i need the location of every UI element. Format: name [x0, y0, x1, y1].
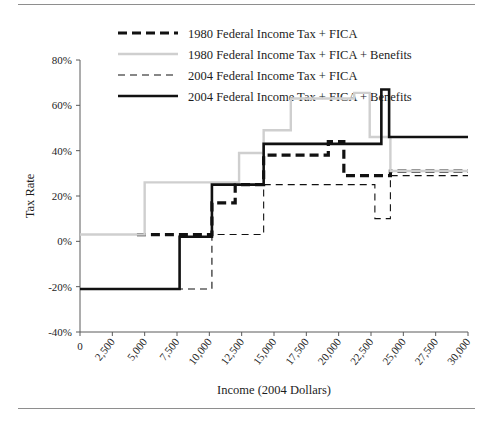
chart-series: [80, 89, 468, 288]
x-tick-label: 17,500: [283, 335, 311, 367]
series-line-tax1980: [137, 142, 468, 235]
tax-rate-step-chart: 1980 Federal Income Tax + FICA1980 Feder…: [0, 0, 493, 421]
y-tick-label: -40%: [48, 326, 72, 338]
legend-label-0: 1980 Federal Income Tax + FICA: [188, 27, 357, 41]
x-tick-label: 15,000: [250, 335, 278, 367]
x-tick-label: 10,000: [186, 335, 214, 367]
x-tick-label: 0: [77, 340, 83, 352]
x-tick-label: 25,000: [380, 335, 408, 367]
y-axis-title: Tax Rate: [23, 173, 37, 218]
legend-label-3: 2004 Federal Income Tax + FICA + Benefit…: [188, 90, 412, 104]
y-tick-label: 20%: [52, 190, 72, 202]
x-tick-label: 5,000: [125, 335, 150, 362]
x-tick-label: 20,000: [315, 335, 343, 367]
x-tick-label: 12,500: [218, 335, 246, 367]
x-tick-label: 22,500: [347, 335, 375, 367]
series-line-tax1980ben: [80, 93, 468, 235]
y-tick-label: 0%: [57, 235, 72, 247]
legend-label-2: 2004 Federal Income Tax + FICA: [188, 69, 357, 83]
y-tick-label: 40%: [52, 145, 72, 157]
series-line-tax2004: [80, 176, 468, 289]
legend-label-1: 1980 Federal Income Tax + FICA + Benefit…: [188, 48, 412, 62]
x-tick-label: 27,500: [412, 335, 440, 367]
series-line-tax2004ben: [80, 89, 468, 288]
y-tick-label: 80%: [52, 54, 72, 66]
x-tick-label: 30,000: [444, 335, 472, 367]
figure-container: 1980 Federal Income Tax + FICA1980 Feder…: [0, 0, 493, 421]
x-tick-label: 7,500: [157, 335, 182, 362]
x-axis-title: Income (2004 Dollars): [217, 383, 331, 397]
x-tick-label: 2,500: [92, 335, 117, 362]
y-tick-label: -20%: [48, 281, 72, 293]
y-tick-label: 60%: [52, 99, 72, 111]
